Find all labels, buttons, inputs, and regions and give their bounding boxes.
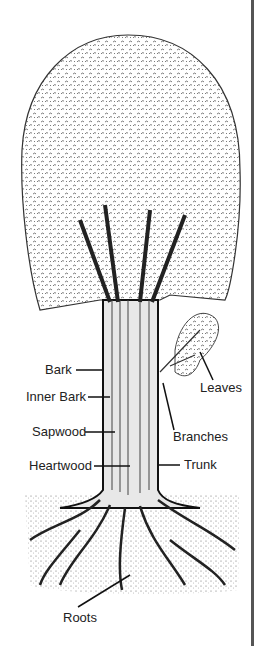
label-inner-bark: Inner Bark <box>26 390 86 404</box>
label-roots: Roots <box>63 611 97 625</box>
tree-illustration <box>0 0 256 646</box>
canopy <box>22 35 241 310</box>
right-border <box>251 0 254 646</box>
pointer-leaves <box>200 352 213 380</box>
label-branches: Branches <box>173 430 228 444</box>
label-heartwood: Heartwood <box>29 459 92 473</box>
label-leaves: Leaves <box>200 381 242 395</box>
pointer-branches <box>163 383 174 430</box>
label-bark: Bark <box>45 363 72 377</box>
label-sapwood: Sapwood <box>32 425 86 439</box>
label-trunk: Trunk <box>184 458 217 472</box>
soil <box>25 495 240 594</box>
leaf-cluster <box>175 313 219 375</box>
trunk <box>60 300 200 508</box>
